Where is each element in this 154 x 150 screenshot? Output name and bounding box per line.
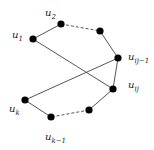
node-label-uij: uij xyxy=(128,80,139,93)
node-u1 xyxy=(29,35,36,42)
nodes-group xyxy=(21,20,121,120)
edge-uij_minus_1-uk xyxy=(25,58,118,100)
edges-group xyxy=(25,24,118,117)
node-label-u1: u1 xyxy=(12,30,23,43)
edge-uij_minus_1-uij xyxy=(113,58,118,89)
node-uk_minus_1 xyxy=(47,113,54,120)
edge-u1-u2 xyxy=(33,24,61,39)
node-label-uij_minus_1: uij−1 xyxy=(128,52,149,65)
edge-u2-n3 xyxy=(61,24,100,31)
edge-n6-uk_minus_1 xyxy=(51,110,89,117)
edge-u1-uij xyxy=(33,39,113,89)
node-label-uk: uk xyxy=(9,104,20,117)
node-label-u2: u2 xyxy=(45,8,56,21)
edge-uij-n6 xyxy=(89,89,113,110)
graph-diagram xyxy=(0,0,154,150)
node-u2 xyxy=(57,20,64,27)
node-uij_minus_1 xyxy=(114,54,121,61)
node-n6 xyxy=(85,106,92,113)
node-uk xyxy=(21,96,28,103)
node-n3 xyxy=(96,27,103,34)
edge-uk_minus_1-uk xyxy=(25,100,51,117)
edge-n3-uij_minus_1 xyxy=(100,31,118,58)
node-label-uk_minus_1: uk−1 xyxy=(45,132,66,145)
node-uij xyxy=(109,85,116,92)
